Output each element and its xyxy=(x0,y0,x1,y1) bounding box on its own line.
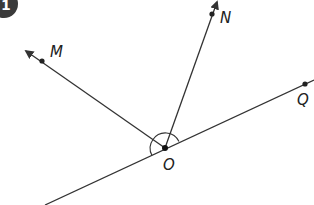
point-Q xyxy=(302,81,307,86)
point-N xyxy=(209,11,214,16)
label-M: M xyxy=(50,43,63,61)
label-Q: Q xyxy=(297,91,309,109)
problem-number-badge: 1 xyxy=(0,0,18,18)
ray-OM xyxy=(26,51,165,148)
angle-arc-QOM xyxy=(153,133,179,142)
point-O xyxy=(162,145,168,151)
geometry-diagram: 1 M N O Q xyxy=(0,0,314,205)
badge-number: 1 xyxy=(1,0,11,13)
line-OQ xyxy=(45,80,314,205)
label-O: O xyxy=(163,156,175,174)
ray-ON xyxy=(165,2,217,148)
angle-arc-lower xyxy=(150,140,153,156)
point-M xyxy=(39,58,44,63)
label-N: N xyxy=(220,9,231,27)
